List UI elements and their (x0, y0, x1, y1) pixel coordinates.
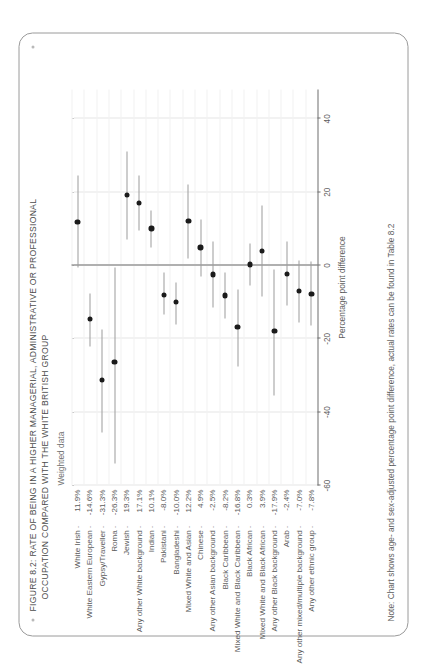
category-label: Any other mixed/multiple background--7.0… (294, 489, 304, 663)
data-point (234, 324, 239, 329)
category-value-label: 3.9% (257, 489, 267, 523)
category-label: Black African-0.3% (244, 489, 254, 577)
data-point (271, 328, 276, 333)
data-point (284, 271, 289, 276)
category-name: Mixed White and Asian (183, 530, 192, 612)
category-tick-icon: - (306, 523, 315, 530)
category-name: Any other mixed/multiple background (294, 530, 303, 663)
category-value-label: 10.1% (146, 489, 156, 523)
category-label: Any other ethnic group--7.8% (306, 489, 316, 611)
category-tick-icon: - (158, 523, 167, 530)
category-label: Any other White background-17.1% (134, 489, 144, 632)
bullet-icon (31, 618, 34, 621)
category-label: Chinese-4.9% (195, 489, 205, 559)
x-axis-tick-label: -20 (322, 332, 331, 344)
category-name: Any other White background (134, 530, 143, 632)
data-point (148, 225, 153, 230)
data-point (308, 291, 313, 296)
x-axis-tick-label: -40 (322, 406, 331, 418)
category-value-label: -8.2% (220, 489, 230, 523)
x-axis-tick (317, 411, 320, 412)
figure-title-line-1: FIGURE 8.2: RATE OF BEING IN A HIGHER MA… (27, 45, 39, 621)
category-tick-icon: - (84, 523, 93, 530)
data-point (210, 271, 215, 276)
category-value-label: 0.3% (244, 489, 254, 523)
category-tick-icon: - (134, 523, 143, 530)
category-value-label: -2.5% (207, 489, 217, 523)
x-axis-line (317, 89, 318, 485)
category-tick-icon: - (72, 523, 81, 530)
category-axis-labels: White Irish-11.9%White Eastern European-… (71, 489, 317, 635)
data-point (161, 292, 166, 297)
category-label: Indian-10.1% (146, 489, 156, 552)
data-point (222, 292, 227, 297)
category-label: White Eastern European--14.6% (84, 489, 94, 618)
category-tick-icon: - (244, 523, 253, 530)
category-tick-icon: - (121, 523, 130, 530)
x-axis-tick (317, 264, 320, 265)
data-point (247, 261, 252, 266)
category-value-label: 17.1% (134, 489, 144, 523)
data-point (173, 299, 178, 304)
category-tick-icon: - (183, 523, 192, 530)
data-point (259, 248, 264, 253)
figure-title-line-2: OCCUPATION COMPARED WITH THE WHITE BRITI… (39, 45, 51, 621)
plot-area (71, 89, 317, 485)
category-value-label: -17.9% (269, 489, 279, 523)
category-value-label: -14.6% (84, 489, 94, 523)
confidence-interval-bar (114, 267, 115, 463)
data-point (185, 218, 190, 223)
x-axis-tick (317, 117, 320, 118)
data-point (74, 219, 79, 224)
category-name: Any other Black background (269, 530, 278, 631)
category-name: Bangladeshi (171, 530, 180, 575)
category-name: Arab (281, 530, 290, 547)
x-axis-tick-label: 20 (322, 187, 331, 196)
category-tick-icon: - (257, 523, 266, 530)
category-tick-icon: - (97, 523, 106, 530)
category-tick-icon: - (294, 523, 303, 530)
category-label: Mixed White and Asian-12.2% (183, 489, 193, 612)
category-label: Any other Asian background--2.5% (207, 489, 217, 631)
category-label: Any other Black background--17.9% (269, 489, 279, 631)
category-name: Mixed White and Black Caribbean (232, 530, 241, 652)
x-axis-tick (317, 484, 320, 485)
category-value-label: 19.3% (121, 489, 131, 523)
category-tick-icon: - (220, 523, 229, 530)
figure-title-block: FIGURE 8.2: RATE OF BEING IN A HIGHER MA… (27, 45, 50, 621)
data-point (124, 192, 129, 197)
category-tick-icon: - (109, 523, 118, 530)
category-value-label: 4.9% (195, 489, 205, 523)
x-axis-tick-label: 0 (322, 263, 331, 268)
category-tick-icon: - (195, 523, 204, 530)
data-point (111, 359, 116, 364)
category-name: Indian (146, 530, 155, 552)
x-axis-tick-label: -60 (322, 479, 331, 491)
category-value-label: -8.0% (158, 489, 168, 523)
category-tick-icon: - (171, 523, 180, 530)
category-name: White Irish (72, 530, 81, 568)
figure-title-text-1: FIGURE 8.2: RATE OF BEING IN A HIGHER MA… (27, 198, 37, 611)
data-point (197, 244, 202, 249)
category-name: Gypsy/Traveller (97, 530, 106, 586)
panel-strip-label: Weighted data (55, 431, 65, 485)
category-tick-icon: - (146, 523, 155, 530)
x-axis-tick-label: 40 (322, 114, 331, 123)
data-point (136, 200, 141, 205)
category-label: Mixed White and Black Caribbean--16.8% (232, 489, 242, 652)
data-point (296, 288, 301, 293)
figure-page: FIGURE 8.2: RATE OF BEING IN A HIGHER MA… (0, 0, 425, 664)
category-name: White Eastern European (84, 530, 93, 618)
category-tick-icon: - (269, 523, 278, 530)
category-label: Black Caribbean--8.2% (220, 489, 230, 589)
category-name: Any other ethnic group (306, 530, 315, 611)
category-label: White Irish-11.9% (72, 489, 82, 568)
category-value-label: -31.3% (97, 489, 107, 523)
x-axis: Percentage point difference -60-40-20020… (317, 89, 351, 485)
category-value-label: -7.0% (294, 489, 304, 523)
category-value-label: -10.0% (171, 489, 181, 523)
x-axis-tick (317, 337, 320, 338)
category-tick-icon: - (232, 523, 241, 530)
figure-card: FIGURE 8.2: RATE OF BEING IN A HIGHER MA… (18, 32, 408, 636)
category-label: Mixed White and Black African-3.9% (257, 489, 267, 639)
